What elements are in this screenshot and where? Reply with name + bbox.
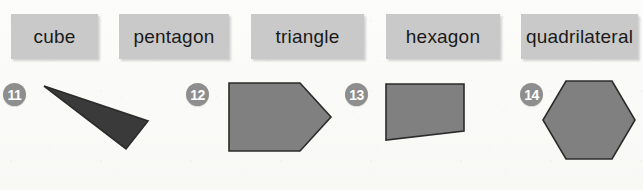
shape-home-plate-pentagon[interactable]: [229, 83, 331, 151]
shape-thin-triangle[interactable]: [44, 86, 148, 149]
shape-canvas: [0, 0, 643, 190]
shape-trapezoid-quadrilateral[interactable]: [386, 84, 464, 140]
worksheet-page: cube pentagon triangle hexagon quadrilat…: [0, 0, 643, 190]
shape-regular-hexagon[interactable]: [543, 81, 635, 159]
